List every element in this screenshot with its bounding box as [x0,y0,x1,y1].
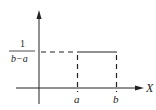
tick-label-b: b [113,93,119,105]
level-label-denominator: b−a [11,53,28,64]
x-axis-arrow-icon [135,86,144,91]
level-label-numerator: 1 [20,38,25,49]
y-axis-arrow-icon [37,10,42,19]
uniform-pdf-diagram: X a b 1 b−a [0,0,156,110]
x-axis-label: X [145,81,154,95]
tick-label-a: a [74,93,80,105]
